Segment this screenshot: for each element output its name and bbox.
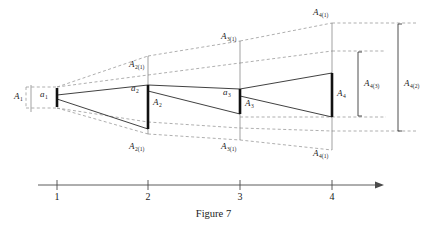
dashed-upper-3-4 — [240, 23, 332, 41]
dashed-lower-1-2 — [57, 108, 148, 134]
label-A3: A3 — [245, 99, 253, 108]
dashed-lower2-1-2 — [57, 108, 148, 122]
dashed-upper-2-3 — [148, 41, 240, 56]
dashed-upper2-3-4 — [240, 51, 332, 63]
label-A4: A4 — [337, 89, 345, 98]
label-A4-2: A4(2) — [404, 79, 419, 88]
figure-caption: Figure 7 — [0, 208, 427, 219]
label-a3: a3 — [223, 88, 230, 97]
axis-label-2: 2 — [140, 191, 156, 202]
axis-label-1: 1 — [49, 191, 65, 202]
solid-1-2-lower — [57, 99, 148, 129]
number-axis — [38, 180, 375, 190]
label-A4-top: A4(1) — [313, 8, 328, 17]
axis-label-4: 4 — [324, 191, 340, 202]
label-A2-top: A2(1) — [129, 60, 144, 69]
dashed-envelope — [26, 23, 416, 150]
label-A1: A1 — [14, 92, 22, 101]
label-a1: a1 — [40, 90, 47, 99]
bracket-A4-2 — [398, 24, 402, 131]
solid-3-4-upper — [240, 73, 332, 89]
dashed-lower2-2-3 — [148, 122, 240, 128]
axis-arrow-icon — [375, 182, 384, 189]
dashed-lower2-3-4 — [240, 128, 332, 131]
dashed-upper2-2-3 — [148, 63, 240, 75]
interval-bars — [57, 73, 332, 129]
label-A2: A2 — [153, 98, 161, 107]
label-A3-top: A3(1) — [221, 32, 236, 41]
label-A4-3: A4(3) — [364, 79, 379, 88]
solid-skeleton — [57, 73, 332, 129]
bracket-A4-3 — [358, 52, 362, 116]
label-a2: a2 — [131, 84, 138, 93]
dashed-lower-2-3 — [148, 134, 240, 140]
label-A3-bottom: A3(1) — [221, 142, 236, 151]
label-A2-bottom: A2(1) — [129, 142, 144, 151]
label-A4-bottom: A4(1) — [313, 149, 328, 158]
axis-label-3: 3 — [232, 191, 248, 202]
